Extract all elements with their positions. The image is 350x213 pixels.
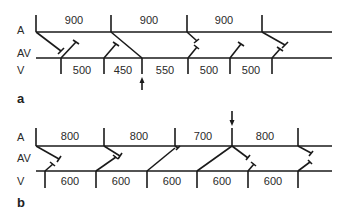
panel-b-ventricular-interval: 600 <box>61 176 79 187</box>
panel-a-row-label-a: A <box>17 25 24 36</box>
panel-b-ventricular-interval: 600 <box>112 176 130 187</box>
panel-b-atrial-interval: 800 <box>61 131 79 142</box>
panel-a-ventricular-interval: 500 <box>200 65 218 76</box>
panel-a-atrial-interval: 900 <box>65 15 83 26</box>
panel-b-ventricular-interval: 600 <box>213 176 231 187</box>
panel-b-arrowhead <box>230 120 235 126</box>
panel-b-ventricular-interval: 600 <box>264 176 282 187</box>
panel-a-label: a <box>17 92 24 105</box>
panel-a-atrial-interval: 900 <box>140 15 158 26</box>
panel-a-ventricular-interval: 500 <box>242 65 260 76</box>
panel-a-row-label-v: V <box>17 65 24 76</box>
panel-b-ladder <box>36 111 332 188</box>
panel-b-row-label-v: V <box>17 176 24 187</box>
panel-a-ventricular-interval: 450 <box>114 65 132 76</box>
panel-b-atrial-interval: 700 <box>194 131 212 142</box>
panel-b-row-label-av: AV <box>17 153 31 164</box>
panel-b-row-label-a: A <box>17 132 24 143</box>
panel-b-label: b <box>17 196 25 209</box>
panel-b-atrial-interval: 800 <box>256 131 274 142</box>
panel-b-ventricular-interval: 600 <box>163 176 181 187</box>
panel-a-ventricular-interval: 550 <box>156 65 174 76</box>
panel-a-ventricular-interval: 500 <box>73 65 91 76</box>
panel-a-row-label-av: AV <box>17 48 31 59</box>
panel-a-ladder <box>36 15 332 90</box>
panel-b-atrial-interval: 800 <box>130 131 148 142</box>
panel-a-atrial-interval: 900 <box>215 15 233 26</box>
panel-a-arrowhead <box>140 77 145 83</box>
